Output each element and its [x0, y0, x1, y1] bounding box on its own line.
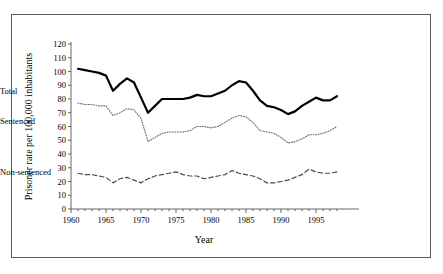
- series-line-total: [78, 69, 337, 114]
- x-axis-tick-label: 1980: [203, 215, 220, 225]
- x-axis-tick-label: 1995: [308, 215, 325, 225]
- y-axis-tick-label: 10: [58, 190, 67, 200]
- x-axis-tick-label: 1975: [168, 215, 185, 225]
- series-line-non-sentenced: [78, 169, 337, 183]
- line-chart: 0102030405060708090100110120196019651970…: [0, 0, 443, 274]
- figure-container: 0102030405060708090100110120196019651970…: [0, 0, 443, 274]
- y-axis-tick-label: 110: [54, 53, 66, 63]
- x-axis-tick-label: 1970: [133, 215, 150, 225]
- y-axis-title: Prisoner rate per 100,000 inhabitants: [23, 53, 34, 201]
- x-axis-title: Year: [195, 234, 214, 245]
- y-axis-tick-label: 90: [58, 80, 67, 90]
- y-axis-tick-label: 40: [58, 149, 67, 159]
- y-axis-tick-label: 100: [53, 67, 66, 77]
- y-axis-tick-label: 60: [58, 122, 67, 132]
- y-axis-tick-label: 120: [53, 39, 66, 49]
- x-axis-tick-label: 1990: [273, 215, 290, 225]
- y-axis-tick-label: 30: [58, 163, 67, 173]
- x-axis-tick-label: 1960: [63, 215, 80, 225]
- series-label-sentenced: Sentenced: [0, 116, 36, 126]
- y-axis-tick-label: 50: [58, 135, 67, 145]
- series-label-non-sentenced: Non-sentenced: [0, 167, 52, 177]
- x-axis-tick-label: 1965: [98, 215, 115, 225]
- x-axis-tick-label: 1985: [238, 215, 255, 225]
- series-label-total: Total: [0, 86, 18, 96]
- y-axis-tick-label: 70: [58, 108, 67, 118]
- y-axis-tick-label: 20: [58, 177, 67, 187]
- y-axis-tick-label: 0: [62, 204, 66, 214]
- y-axis-tick-label: 80: [58, 94, 67, 104]
